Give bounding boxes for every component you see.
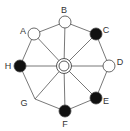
label-D: D [117, 57, 124, 67]
center-inner-ring [59, 61, 69, 71]
label-B: B [61, 5, 67, 15]
label-F: F [62, 119, 68, 129]
node-D [103, 60, 115, 72]
node-H [14, 60, 26, 72]
center-hub [57, 59, 72, 74]
node-B [59, 16, 71, 28]
node-F [59, 105, 71, 117]
label-G: G [20, 98, 27, 108]
node-A [28, 28, 40, 40]
label-H: H [5, 61, 12, 71]
node-C [90, 28, 102, 40]
node-E [90, 92, 102, 104]
wheel-diagram: ABCDEFGH [0, 0, 130, 131]
label-C: C [103, 25, 110, 35]
label-A: A [20, 26, 26, 36]
label-E: E [103, 96, 109, 106]
